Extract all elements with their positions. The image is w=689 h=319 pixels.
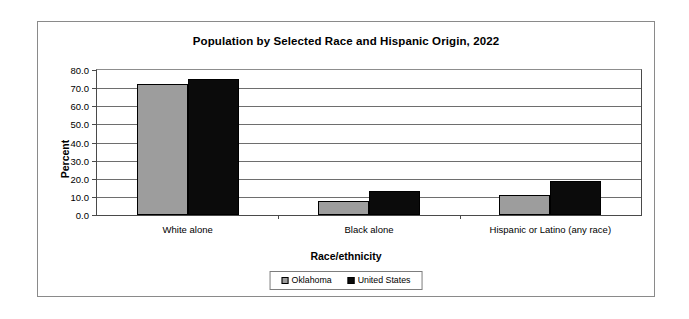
- y-axis-tick-label: 20.0: [71, 173, 90, 184]
- category-separator-tick: [460, 215, 461, 219]
- bar: [369, 191, 420, 215]
- legend-swatch-icon: [348, 277, 355, 284]
- y-axis-tick-label: 0.0: [76, 210, 89, 221]
- y-axis-tick-label: 30.0: [71, 155, 90, 166]
- bar-group: [97, 70, 278, 215]
- legend-label: United States: [358, 275, 411, 285]
- chart-frame: Population by Selected Race and Hispanic…: [37, 21, 655, 297]
- y-axis-tick-label: 60.0: [71, 101, 90, 112]
- chart-title: Population by Selected Race and Hispanic…: [38, 35, 654, 47]
- y-axis-tick-label: 70.0: [71, 83, 90, 94]
- chart-legend: OklahomaUnited States: [270, 271, 423, 290]
- x-axis-category-label: Black alone: [344, 224, 393, 235]
- legend-entry[interactable]: Oklahoma: [282, 275, 332, 285]
- x-axis-title: Race/ethnicity: [38, 250, 654, 262]
- bar: [499, 195, 550, 215]
- y-axis-tick-label: 80.0: [71, 65, 90, 76]
- x-axis-category-label: White alone: [163, 224, 213, 235]
- x-axis-category-label: Hispanic or Latino (any race): [490, 224, 611, 235]
- bar: [318, 201, 369, 215]
- legend-entry[interactable]: United States: [348, 275, 411, 285]
- y-axis-tick-mark: [92, 215, 97, 216]
- legend-swatch-icon: [282, 277, 289, 284]
- y-axis-tick-label: 10.0: [71, 191, 90, 202]
- y-axis-tick-label: 40.0: [71, 137, 90, 148]
- plot-area: 0.010.020.030.040.050.060.070.080.0 Whit…: [96, 69, 642, 216]
- y-axis-tick-label: 50.0: [71, 119, 90, 130]
- bar: [550, 181, 601, 215]
- bar: [137, 84, 188, 215]
- bar-group: [460, 70, 641, 215]
- y-axis-title: Percent: [59, 140, 71, 179]
- legend-label: Oklahoma: [292, 275, 332, 285]
- category-separator-tick: [278, 215, 279, 219]
- bar-group: [278, 70, 459, 215]
- bar: [188, 79, 239, 215]
